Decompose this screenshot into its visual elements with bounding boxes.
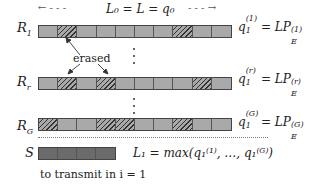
erased-packet bbox=[116, 119, 135, 130]
packet bbox=[58, 119, 77, 130]
packet bbox=[135, 119, 154, 130]
erased-packet bbox=[173, 119, 192, 130]
source-equation: L₁ = max(q₁⁽¹⁾, …, q₁⁽ᴳ⁾) bbox=[133, 146, 273, 160]
row-rr-packets bbox=[38, 77, 232, 90]
source-packet bbox=[39, 148, 58, 159]
source-caption: to transmit in i = 1 bbox=[40, 168, 146, 181]
vertical-ellipsis-2 bbox=[133, 98, 135, 119]
packet bbox=[39, 78, 58, 89]
packet bbox=[193, 119, 212, 130]
erased-packet bbox=[97, 119, 116, 130]
erased-packet bbox=[97, 78, 116, 89]
source-label: S bbox=[25, 145, 34, 160]
erased-arrows bbox=[0, 0, 325, 191]
packet bbox=[154, 119, 173, 130]
packet bbox=[135, 78, 154, 89]
row-rr-equation: q(r)1 = LP(r)E bbox=[238, 72, 291, 86]
row-rg-equation: q(G)1 = LP(G)E bbox=[238, 115, 291, 129]
erased-packet bbox=[58, 78, 77, 89]
source-packet bbox=[96, 148, 115, 159]
vertical-ellipsis-1 bbox=[133, 48, 135, 69]
packet bbox=[77, 78, 96, 89]
packet bbox=[212, 119, 231, 130]
row-label-rr: Rr bbox=[17, 74, 31, 92]
erased-packet bbox=[39, 119, 58, 130]
packet bbox=[212, 78, 231, 89]
dotted-separator bbox=[38, 137, 268, 138]
source-packet bbox=[77, 148, 96, 159]
source-packet bbox=[58, 148, 77, 159]
packet bbox=[77, 119, 96, 130]
packet bbox=[173, 78, 192, 89]
packet bbox=[154, 78, 173, 89]
row-rg-packets bbox=[38, 118, 232, 131]
erased-packet bbox=[193, 78, 212, 89]
row-label-rg: RG bbox=[17, 118, 33, 136]
packet bbox=[116, 78, 135, 89]
source-packets bbox=[38, 147, 116, 160]
